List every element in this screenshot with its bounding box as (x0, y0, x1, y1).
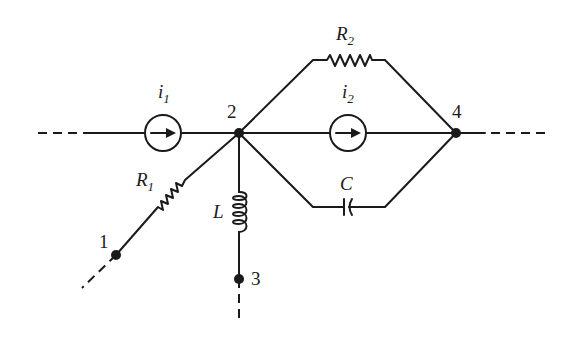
node1-dashed-lead (82, 255, 116, 288)
r2-label: R2 (335, 23, 355, 48)
node-2-label: 2 (227, 101, 237, 122)
node-2-dot (234, 128, 244, 138)
node-4-dot (451, 128, 461, 138)
node-3-label: 3 (251, 268, 261, 289)
circuit-diagram: 2 4 1 3 i1 i2 R2 R1 L C (0, 0, 570, 337)
r1-label: R1 (135, 169, 154, 194)
l-label: L (212, 201, 224, 222)
inductor-l-branch (233, 133, 247, 279)
c-label: C (340, 173, 353, 194)
resistor-r1-branch (116, 133, 239, 255)
i2-label: i2 (342, 81, 354, 106)
node-4-label: 4 (452, 101, 462, 122)
current-source-i2 (330, 115, 366, 151)
node-3-dot (234, 274, 244, 284)
arrow-right-icon (166, 128, 176, 138)
current-source-i1 (145, 115, 181, 151)
i1-label: i1 (158, 81, 170, 106)
node-1-dot (111, 250, 121, 260)
node-1-label: 1 (99, 231, 109, 252)
arrow-right-icon (351, 128, 361, 138)
